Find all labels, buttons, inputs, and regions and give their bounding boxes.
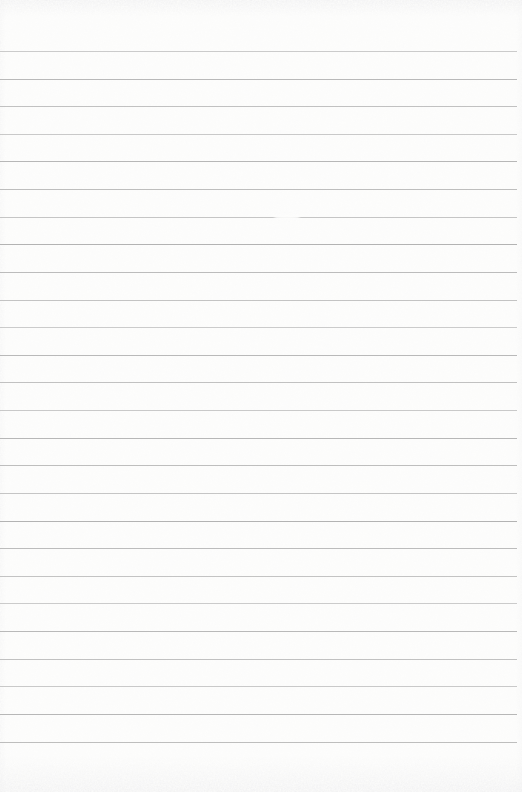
- rule-line: [0, 272, 517, 273]
- white-out-smudge: [274, 214, 300, 220]
- rule-line: [0, 603, 517, 604]
- rule-line: [0, 631, 517, 632]
- rule-line: [0, 438, 517, 439]
- rule-line: [0, 548, 517, 549]
- rule-line: [0, 465, 517, 466]
- rule-line: [0, 106, 517, 107]
- rule-line: [0, 161, 517, 162]
- rule-line: [0, 244, 517, 245]
- rule-line: [0, 382, 517, 383]
- rule-line: [0, 79, 517, 80]
- rule-line: [0, 189, 517, 190]
- rule-line: [0, 51, 517, 52]
- rule-line: [0, 355, 517, 356]
- rule-line: [0, 217, 517, 218]
- rule-line: [0, 521, 517, 522]
- rule-line: [0, 327, 517, 328]
- rule-line: [0, 300, 517, 301]
- rule-line: [0, 659, 517, 660]
- rule-line: [0, 714, 517, 715]
- rule-line: [0, 742, 517, 743]
- rule-line: [0, 493, 517, 494]
- notebook-page: [0, 0, 522, 792]
- rule-line: [0, 576, 517, 577]
- ruled-lines: [0, 0, 522, 792]
- rule-line: [0, 686, 517, 687]
- rule-line: [0, 134, 517, 135]
- rule-line: [0, 410, 517, 411]
